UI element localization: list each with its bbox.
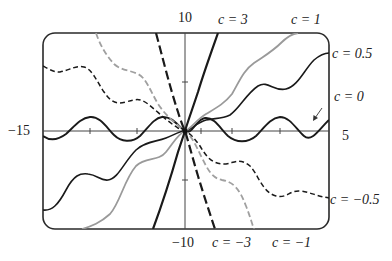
label-c-1: c = 1: [291, 12, 321, 27]
label-c-minus-1: c = −1: [272, 235, 311, 250]
axis-left-label: −15: [8, 123, 30, 138]
chart-canvas: 10 −10 −15 5 c = 3 c = 1 c = 0.5 c = 0 c…: [0, 0, 392, 261]
label-c-minus-0.5: c = −0.5: [330, 192, 380, 207]
axis-bottom-label: −10: [172, 235, 194, 250]
label-c-0.5: c = 0.5: [332, 46, 372, 61]
c0-arrow-line: [315, 108, 322, 118]
axis-top-label: 10: [178, 10, 192, 25]
c0-arrow-icon: [313, 115, 318, 121]
label-c-3: c = 3: [218, 12, 248, 27]
label-c-0: c = 0: [334, 89, 364, 104]
axis-right-label: 5: [342, 128, 349, 143]
label-c-minus-3: c = −3: [212, 235, 251, 250]
origin-point: [182, 128, 187, 133]
